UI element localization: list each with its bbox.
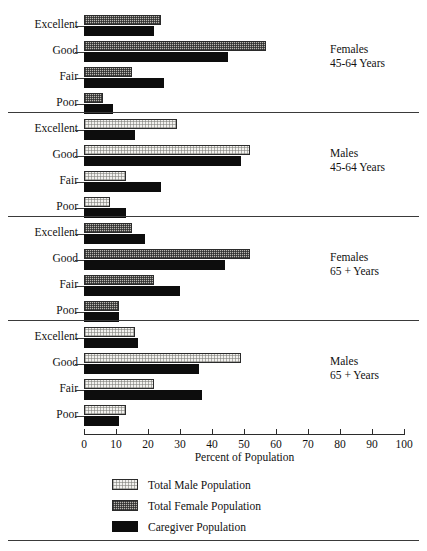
panel-caption-group: Males [330, 146, 385, 160]
category-label: Good [52, 148, 78, 161]
category-label: Poor [56, 304, 78, 317]
panel-3: ExcellentGoodFairPoorFemales65 + Years [0, 222, 427, 326]
panel-caption: Females45-64 Years [330, 42, 385, 70]
bar-total_male [84, 197, 110, 207]
category-tick [75, 234, 84, 235]
category-tick [75, 182, 84, 183]
bar-caregiver [84, 130, 135, 140]
bar-caregiver [84, 338, 138, 348]
bar-total_female [84, 249, 250, 259]
category-tick [75, 52, 84, 53]
bar-group-row: Excellent [0, 14, 427, 40]
bar-group-row: Poor [0, 300, 427, 326]
bar-caregiver [84, 26, 154, 36]
x-axis: 0102030405060708090100 [0, 434, 427, 435]
bar-group-row: Poor [0, 92, 427, 118]
panel-caption-age: 45-64 Years [330, 56, 385, 70]
x-tick [116, 429, 117, 435]
legend-label-total_female: Total Female Population [148, 499, 261, 513]
x-tick-label: 100 [384, 438, 424, 450]
bar-total_male [84, 171, 126, 181]
x-tick [244, 429, 245, 435]
bar-total_female [84, 41, 266, 51]
bar-group-row: Excellent [0, 222, 427, 248]
bar-caregiver [84, 234, 145, 244]
category-tick [75, 104, 84, 105]
panel-1: ExcellentGoodFairPoorFemales45-64 Years [0, 14, 427, 118]
bar-caregiver [84, 286, 180, 296]
category-label: Excellent [35, 330, 78, 343]
category-label: Excellent [35, 18, 78, 31]
bar-total_female [84, 301, 119, 311]
bar-group-row: Excellent [0, 118, 427, 144]
x-tick [276, 429, 277, 435]
top-rule [8, 0, 419, 1]
x-tick [372, 429, 373, 435]
category-tick [75, 260, 84, 261]
bar-total_male [84, 405, 126, 415]
bar-caregiver [84, 390, 202, 400]
category-tick [75, 338, 84, 339]
panel-caption: Females65 + Years [330, 250, 379, 278]
legend-swatch-total_female [112, 500, 138, 511]
panel-caption-age: 65 + Years [330, 264, 379, 278]
bar-total_female [84, 93, 103, 103]
legend-label-caregiver: Caregiver Population [148, 520, 246, 534]
x-tick [148, 429, 149, 435]
bar-caregiver [84, 52, 228, 62]
bar-total_female [84, 223, 132, 233]
category-label: Fair [59, 174, 78, 187]
panel-caption-age: 65 + Years [330, 368, 379, 382]
legend-label-total_male: Total Male Population [148, 478, 251, 492]
category-tick [75, 286, 84, 287]
x-tick [308, 429, 309, 435]
category-label: Poor [56, 96, 78, 109]
category-label: Fair [59, 278, 78, 291]
category-label: Poor [56, 408, 78, 421]
x-axis-title: Percent of Population [84, 451, 405, 463]
panel-caption-group: Males [330, 354, 379, 368]
bar-caregiver [84, 78, 164, 88]
bar-total_male [84, 119, 177, 129]
bar-caregiver [84, 260, 225, 270]
category-tick [75, 78, 84, 79]
panel-2: ExcellentGoodFairPoorMales45-64 Years [0, 118, 427, 222]
category-tick [75, 364, 84, 365]
category-label: Fair [59, 382, 78, 395]
category-tick [75, 312, 84, 313]
category-tick [75, 26, 84, 27]
panel-separator-1 [8, 112, 419, 113]
bar-total_male [84, 145, 250, 155]
bar-total_male [84, 327, 135, 337]
legend-swatch-total_male [112, 479, 138, 490]
bar-caregiver [84, 416, 119, 426]
panel-4: ExcellentGoodFairPoorMales65 + Years [0, 326, 427, 430]
bar-total_male [84, 353, 241, 363]
x-tick [340, 429, 341, 435]
panel-caption-age: 45-64 Years [330, 160, 385, 174]
bar-total_male [84, 379, 154, 389]
category-label: Good [52, 252, 78, 265]
bar-group-row: Excellent [0, 326, 427, 352]
x-tick [180, 429, 181, 435]
x-tick [212, 429, 213, 435]
panel-caption: Males45-64 Years [330, 146, 385, 174]
category-label: Fair [59, 70, 78, 83]
x-tick [404, 429, 405, 435]
x-tick [84, 429, 85, 435]
category-tick [75, 208, 84, 209]
bar-caregiver [84, 182, 161, 192]
panel-separator-2 [8, 216, 419, 217]
health-status-bar-chart: ExcellentGoodFairPoorFemales45-64 YearsE… [0, 0, 427, 551]
bar-caregiver [84, 364, 199, 374]
category-label: Good [52, 356, 78, 369]
panel-caption: Males65 + Years [330, 354, 379, 382]
bar-total_female [84, 275, 154, 285]
panel-caption-group: Females [330, 42, 385, 56]
category-tick [75, 416, 84, 417]
bar-group-row: Poor [0, 196, 427, 222]
category-label: Excellent [35, 122, 78, 135]
bar-total_female [84, 67, 132, 77]
panel-separator-3 [8, 320, 419, 321]
panel-caption-group: Females [330, 250, 379, 264]
